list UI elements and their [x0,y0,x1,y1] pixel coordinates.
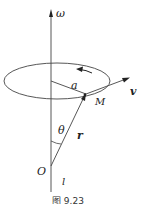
M-label: M [95,97,105,107]
l-label: l [62,177,65,187]
velocity-vector [86,79,126,94]
a-label: a [71,80,78,91]
O-label: O [37,166,46,177]
diagram-canvas [0,0,141,204]
point-M [84,94,87,97]
theta-arc [51,141,61,144]
omega-label: ω [56,8,65,19]
circular-orbit [4,63,110,99]
rotation-arrowhead [76,67,83,73]
figure-caption: 图 9.23 [52,197,84,204]
radius-a [51,81,86,94]
omega-arrowhead [49,9,53,17]
r-label: r [77,130,83,141]
v-label: v [130,86,136,97]
theta-label: θ [58,125,65,136]
velocity-arrowhead [122,78,130,83]
